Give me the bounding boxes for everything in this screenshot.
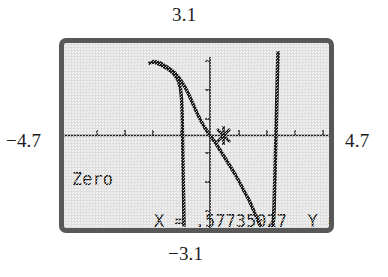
window-xmin-label: −4.7 — [6, 130, 41, 152]
zero-y-value: Y = 0 — [307, 211, 334, 231]
window-ymin-label: −3.1 — [168, 243, 203, 265]
lcd-content: Zero X = .57735027 Y = 0 — [64, 43, 329, 228]
zero-readout-title: Zero — [72, 169, 113, 189]
zero-x-value: X = .57735027 — [154, 211, 287, 231]
window-ymax-label: 3.1 — [172, 4, 196, 26]
calculator-lcd-screen[interactable]: Zero X = .57735027 Y = 0 — [59, 38, 334, 233]
calculator-screenshot: 3.1 −4.7 4.7 −3.1 — [0, 0, 388, 277]
curve-peak — [150, 62, 158, 64]
zero-readout-values: X = .57735027 Y = 0 — [72, 191, 334, 233]
window-xmax-label: 4.7 — [345, 130, 369, 152]
